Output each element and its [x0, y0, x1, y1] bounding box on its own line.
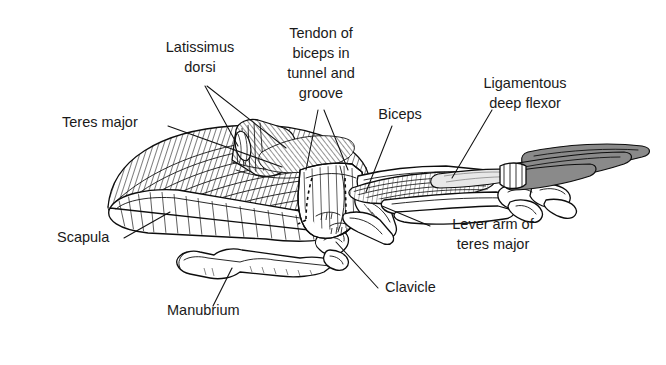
label-tendon-of-biceps-line4: groove	[299, 85, 343, 101]
label-clavicle: Clavicle	[385, 279, 436, 295]
label-scapula-line1: Scapula	[57, 229, 110, 245]
illustration-group	[108, 119, 650, 278]
label-tendon-of-biceps-line2: biceps in	[292, 45, 349, 61]
label-lever-arm-of-teres-major: Lever arm of teres major	[452, 216, 534, 252]
label-latissimus-dorsi-line2: dorsi	[184, 59, 215, 75]
label-biceps: Biceps	[378, 106, 422, 122]
label-scapula: Scapula	[57, 229, 110, 245]
manubrium-bone	[177, 249, 336, 279]
label-tendon-of-biceps-line1: Tendon of	[289, 25, 354, 41]
label-tendon-of-biceps: Tendon of biceps in tunnel and groove	[287, 25, 355, 101]
label-ligamentous-deep-flexor-line2: deep flexor	[489, 95, 561, 111]
label-teres-major-line1: Teres major	[62, 114, 138, 130]
quill-bases	[500, 163, 526, 189]
label-clavicle-line1: Clavicle	[385, 279, 436, 295]
label-lever-arm-line1: Lever arm of	[452, 216, 534, 232]
label-lever-arm-line2: teres major	[457, 236, 530, 252]
label-ligamentous-deep-flexor-line1: Ligamentous	[483, 75, 566, 91]
label-manubrium: Manubrium	[167, 302, 240, 318]
label-manubrium-line1: Manubrium	[167, 302, 240, 318]
label-latissimus-dorsi-line1: Latissimus	[166, 39, 235, 55]
label-teres-major: Teres major	[62, 114, 138, 130]
label-ligamentous-deep-flexor: Ligamentous deep flexor	[483, 75, 566, 111]
label-latissimus-dorsi: Latissimus dorsi	[166, 39, 235, 75]
anatomy-illustration: Latissimus dorsi Tendon of biceps in tun…	[0, 0, 666, 365]
label-biceps-line1: Biceps	[378, 106, 422, 122]
label-tendon-of-biceps-line3: tunnel and	[287, 65, 355, 81]
anatomical-figure: Latissimus dorsi Tendon of biceps in tun…	[0, 0, 666, 365]
leader-deep-flexor	[452, 110, 492, 178]
